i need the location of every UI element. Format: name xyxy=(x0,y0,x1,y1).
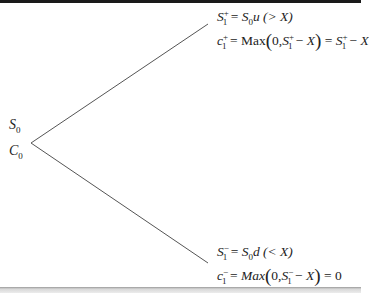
up-price-equation: S+1 = S0u (> X) xyxy=(217,9,293,25)
root-price-label: S0 xyxy=(9,117,21,133)
down-branch xyxy=(31,143,208,263)
up-branch xyxy=(31,24,208,143)
down-option-equation: c−1 = Max(0,S−1 − X) = 0 xyxy=(217,266,342,284)
down-price-equation: S−1 = S0d (< X) xyxy=(217,244,293,260)
bottom-border xyxy=(0,287,361,293)
root-option-label: C0 xyxy=(9,143,23,159)
up-option-equation: c+1 = Max(0,S+1 − X) = S+1 − X xyxy=(217,31,369,49)
